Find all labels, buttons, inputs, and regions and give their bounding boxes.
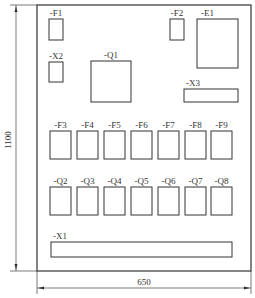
components-group: -F1-X2-Q1-F2-E1-X3-F3-F4-F5-F6-F7-F8-F9-…	[49, 8, 238, 257]
component-label: -Q5	[135, 176, 149, 186]
width-dimension: 650	[37, 271, 251, 294]
component-label: -Q6	[162, 176, 176, 186]
component-label: -Q2	[54, 176, 68, 186]
arrow-left-icon	[38, 287, 44, 290]
component-label: -X1	[53, 231, 67, 241]
component-label: -F1	[50, 8, 63, 18]
component-box	[49, 62, 63, 82]
component-label: -F6	[135, 120, 148, 130]
component-label: -F9	[215, 120, 228, 130]
component-label: -Q1	[104, 50, 118, 60]
width-label: 650	[137, 277, 151, 287]
component-box	[158, 131, 179, 159]
component-q6: -Q6	[158, 176, 179, 215]
arrow-up-icon	[15, 6, 18, 12]
arrow-down-icon	[15, 264, 18, 270]
component-box	[51, 242, 232, 257]
component-box	[211, 187, 232, 215]
component-box	[158, 187, 179, 215]
component-x1: -X1	[51, 231, 232, 257]
component-label: -F7	[162, 120, 175, 130]
component-f5: -F5	[104, 120, 125, 159]
component-f2: -F2	[170, 8, 184, 40]
enclosure-outline	[37, 5, 251, 271]
component-box	[104, 131, 125, 159]
component-box	[104, 187, 125, 215]
component-f3: -F3	[50, 120, 71, 159]
component-q2: -Q2	[50, 176, 71, 215]
component-label: -X2	[49, 51, 63, 61]
component-label: -F2	[171, 8, 184, 18]
component-label: -F8	[189, 120, 202, 130]
component-box	[49, 19, 63, 40]
component-box	[50, 187, 71, 215]
component-q5: -Q5	[131, 176, 152, 215]
component-label: -E1	[201, 8, 214, 18]
component-box	[50, 131, 71, 159]
component-x3: -X3	[184, 78, 238, 102]
component-box	[91, 61, 131, 102]
component-q3: -Q3	[77, 176, 98, 215]
component-box	[131, 187, 152, 215]
component-box	[185, 131, 206, 159]
component-label: -X3	[186, 78, 200, 88]
component-q1: -Q1	[91, 50, 131, 102]
component-f4: -F4	[77, 120, 98, 159]
component-x2: -X2	[49, 51, 63, 82]
component-box	[185, 187, 206, 215]
component-label: -F3	[54, 120, 67, 130]
component-q4: -Q4	[104, 176, 125, 215]
component-label: -F5	[108, 120, 121, 130]
height-label: 1100	[3, 131, 13, 149]
component-q7: -Q7	[185, 176, 206, 215]
component-box	[211, 131, 232, 159]
component-label: -Q8	[215, 176, 229, 186]
component-q8: -Q8	[211, 176, 232, 215]
component-f8: -F8	[185, 120, 206, 159]
height-dimension: 1100	[3, 5, 37, 271]
component-f1: -F1	[49, 8, 63, 40]
component-box	[77, 187, 98, 215]
component-f7: -F7	[158, 120, 179, 159]
component-label: -Q4	[108, 176, 122, 186]
component-label: -F4	[81, 120, 94, 130]
component-label: -Q3	[81, 176, 95, 186]
component-box	[184, 89, 238, 102]
component-box	[170, 19, 184, 40]
component-box	[197, 19, 238, 68]
panel-layout-diagram: 1100 650 -F1-X2-Q1-F2-E1-X3-F3-F4-F5-F6-…	[0, 0, 255, 298]
component-e1: -E1	[197, 8, 238, 68]
arrow-right-icon	[244, 287, 250, 290]
component-box	[131, 131, 152, 159]
component-label: -Q7	[189, 176, 203, 186]
component-box	[77, 131, 98, 159]
component-f9: -F9	[211, 120, 232, 159]
component-f6: -F6	[131, 120, 152, 159]
